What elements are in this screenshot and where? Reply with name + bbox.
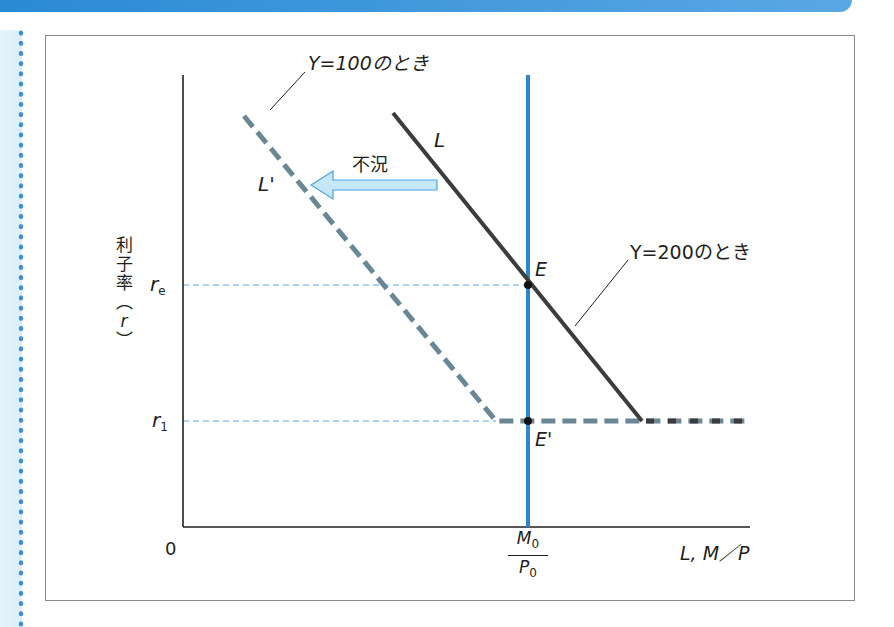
liquidity-trap-diagram: [0, 0, 894, 627]
label-l-prime: L': [258, 172, 275, 196]
tick-r1: r1: [152, 408, 168, 434]
label-recession: 不況: [352, 150, 388, 176]
curve-l: [393, 113, 642, 421]
curve-l-prime: [244, 116, 750, 421]
leader-y100: [270, 72, 305, 110]
point-e-prime: [524, 417, 532, 425]
point-e: [524, 281, 532, 289]
origin-label: 0: [165, 538, 176, 559]
label-l: L: [434, 128, 445, 152]
leader-y200: [575, 260, 628, 326]
label-e-prime: E': [535, 428, 552, 450]
y-axis-label: 利 子 率 ︵ r ︶: [114, 236, 134, 350]
x-axis-label: L, M／P: [680, 538, 750, 565]
label-e: E: [535, 258, 547, 280]
annotation-y100: Y=100のとき: [308, 48, 429, 75]
tick-re: re: [150, 272, 166, 298]
x-tick-m0-p0: M0 P0: [508, 528, 548, 583]
annotation-y200: Y=200のとき: [630, 237, 751, 264]
